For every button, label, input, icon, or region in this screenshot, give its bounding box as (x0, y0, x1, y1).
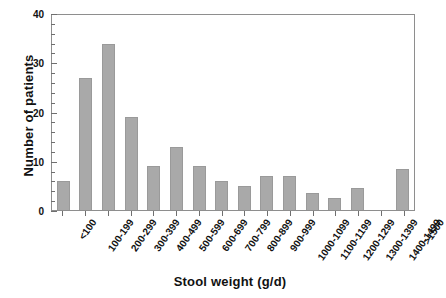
y-tick-label: 20 (18, 107, 44, 118)
x-tick (85, 211, 86, 216)
y-tick-minor (51, 201, 55, 202)
x-tick (244, 211, 245, 216)
y-tick-minor (51, 142, 55, 143)
y-tick-minor (51, 44, 55, 45)
y-tick-major (51, 63, 57, 64)
bar-slot (301, 15, 324, 210)
x-tick (131, 211, 132, 216)
bar-slot (369, 15, 392, 210)
bar-slot (143, 15, 166, 210)
y-tick-minor (51, 83, 55, 84)
bar (238, 186, 251, 210)
bar (147, 166, 160, 210)
bar-slot (120, 15, 143, 210)
bar (79, 78, 92, 210)
y-tick-major (51, 211, 57, 212)
bar-slot (210, 15, 233, 210)
bar (351, 188, 364, 210)
bar-slot (324, 15, 347, 210)
bar-series (52, 15, 414, 210)
plot-area (51, 14, 415, 211)
bar-slot (346, 15, 369, 210)
x-tick (313, 211, 314, 216)
bar-slot (75, 15, 98, 210)
bar-slot (256, 15, 279, 210)
y-tick-minor (51, 191, 55, 192)
y-tick-label: 30 (18, 58, 44, 69)
y-tick-label: 40 (18, 9, 44, 20)
x-tick (335, 211, 336, 216)
y-tick-minor (51, 122, 55, 123)
x-tick (404, 211, 405, 216)
y-tick-major (51, 14, 57, 15)
bar (193, 166, 206, 210)
y-tick-minor (51, 132, 55, 133)
y-tick-minor (51, 152, 55, 153)
y-tick-major (51, 162, 57, 163)
bar (328, 198, 341, 210)
bar (170, 147, 183, 210)
x-tick (62, 211, 63, 216)
x-tick (267, 211, 268, 216)
bar (283, 176, 296, 210)
x-tick (199, 211, 200, 216)
bar (215, 181, 228, 210)
x-tick (108, 211, 109, 216)
y-tick-label: 0 (18, 206, 44, 217)
bar-slot (233, 15, 256, 210)
bar (102, 44, 115, 210)
x-tick (176, 211, 177, 216)
y-tick-minor (51, 93, 55, 94)
bar-slot (188, 15, 211, 210)
y-tick-minor (51, 24, 55, 25)
bar (396, 169, 409, 210)
bar (57, 181, 70, 210)
y-tick-minor (51, 181, 55, 182)
bar-slot (165, 15, 188, 210)
bar-slot (278, 15, 301, 210)
y-tick-major (51, 113, 57, 114)
bar (306, 193, 319, 210)
y-tick-minor (51, 73, 55, 74)
y-tick-minor (51, 34, 55, 35)
x-tick (222, 211, 223, 216)
x-tick (358, 211, 359, 216)
bar-slot (391, 15, 414, 210)
y-tick-minor (51, 53, 55, 54)
x-tick (381, 211, 382, 216)
bar (260, 176, 273, 210)
x-tick (153, 211, 154, 216)
x-axis-title: Stool weight (g/d) (120, 274, 340, 289)
bar (125, 117, 138, 210)
x-tick (290, 211, 291, 216)
x-tick-label: <100 (77, 217, 99, 242)
y-tick-label: 10 (18, 156, 44, 167)
y-tick-minor (51, 172, 55, 173)
y-tick-minor (51, 103, 55, 104)
bar-slot (97, 15, 120, 210)
